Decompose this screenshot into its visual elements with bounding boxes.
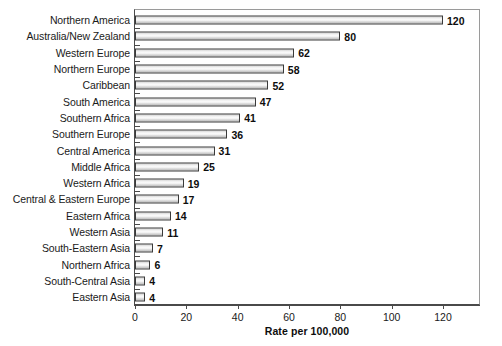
- category-label: South America: [63, 96, 134, 107]
- bar: [135, 211, 171, 220]
- bar: [135, 146, 215, 155]
- category-label: Eastern Africa: [66, 210, 134, 221]
- bar-with-value: 6: [135, 260, 160, 269]
- bar-row: South-Central Asia4: [0, 273, 502, 289]
- bar-with-value: 120: [135, 16, 465, 25]
- bar-row: Middle Africa25: [0, 159, 502, 175]
- bar-value-label: 80: [344, 31, 356, 41]
- bar-row: Southern Africa41: [0, 110, 502, 126]
- category-label: Central America: [57, 145, 134, 156]
- bar-value-label: 19: [188, 178, 200, 188]
- x-axis-tick-label: 40: [232, 311, 244, 323]
- bar-value-label: 58: [288, 64, 300, 74]
- x-axis-tick-label: 60: [283, 311, 295, 323]
- category-label: Western Asia: [70, 227, 134, 238]
- bar-value-label: 25: [203, 162, 215, 172]
- bar-row: Western Europe62: [0, 45, 502, 61]
- bar: [135, 228, 163, 237]
- bar-value-label: 4: [149, 292, 155, 302]
- bar: [135, 130, 227, 139]
- category-label: Western Europe: [56, 47, 134, 58]
- bar-row: Western Africa19: [0, 175, 502, 191]
- category-label: Caribbean: [82, 80, 134, 91]
- bar-value-label: 41: [244, 113, 256, 123]
- bar-with-value: 31: [135, 146, 230, 155]
- bar-row: South-Eastern Asia7: [0, 240, 502, 256]
- bar-row: Northern Africa6: [0, 256, 502, 272]
- bar: [135, 32, 340, 41]
- bar: [135, 97, 256, 106]
- bar-row: Northern Europe58: [0, 61, 502, 77]
- x-axis-tick-label: 20: [180, 311, 192, 323]
- bar: [135, 81, 268, 90]
- category-label: Southern Africa: [60, 112, 134, 123]
- category-label: Australia/New Zealand: [26, 31, 134, 42]
- x-axis-tick: [186, 305, 187, 309]
- bar-row: Central & Eastern Europe17: [0, 191, 502, 207]
- x-axis-tick: [289, 305, 290, 309]
- bar-row: Eastern Asia4: [0, 289, 502, 305]
- bar-chart: Northern America120Australia/New Zealand…: [0, 0, 502, 346]
- bar-value-label: 7: [157, 243, 163, 253]
- x-axis-title: Rate per 100,000: [134, 325, 480, 337]
- bar-value-label: 4: [149, 276, 155, 286]
- bar-with-value: 36: [135, 130, 243, 139]
- bar-with-value: 4: [135, 276, 155, 285]
- bar-row: Southern Europe36: [0, 126, 502, 142]
- bar-with-value: 52: [135, 81, 284, 90]
- bar-with-value: 80: [135, 32, 356, 41]
- bar: [135, 16, 443, 25]
- x-axis-tick: [443, 305, 444, 309]
- category-label: South-Eastern Asia: [42, 243, 134, 254]
- bar-value-label: 17: [183, 194, 195, 204]
- bar: [135, 195, 179, 204]
- bar-row: Australia/New Zealand80: [0, 28, 502, 44]
- x-axis-tick-label: 0: [132, 311, 138, 323]
- bar: [135, 293, 145, 302]
- bar: [135, 179, 184, 188]
- bar: [135, 244, 153, 253]
- bar-value-label: 62: [298, 48, 310, 58]
- category-label: Central & Eastern Europe: [13, 194, 134, 205]
- bar-with-value: 17: [135, 195, 194, 204]
- bar: [135, 260, 150, 269]
- bar-with-value: 25: [135, 162, 215, 171]
- bar-value-label: 36: [231, 129, 243, 139]
- bar-value-label: 11: [167, 227, 178, 237]
- bar-value-label: 52: [272, 80, 284, 90]
- x-axis-tick: [340, 305, 341, 309]
- category-label: Northern Europe: [54, 64, 134, 75]
- bar-row: South America47: [0, 93, 502, 109]
- bar-with-value: 58: [135, 65, 300, 74]
- bar-with-value: 62: [135, 48, 310, 57]
- bar-value-label: 31: [219, 146, 231, 156]
- category-label: South-Central Asia: [44, 275, 134, 286]
- bar: [135, 48, 294, 57]
- x-axis-tick: [238, 305, 239, 309]
- bar-row: Eastern Africa14: [0, 208, 502, 224]
- bar-value-label: 14: [175, 211, 187, 221]
- category-label: Eastern Asia: [72, 292, 134, 303]
- bar-with-value: 47: [135, 97, 271, 106]
- bar-with-value: 14: [135, 211, 187, 220]
- category-label: Southern Europe: [52, 129, 134, 140]
- bar-row: Caribbean52: [0, 77, 502, 93]
- x-axis: 020406080100120: [134, 305, 480, 306]
- bar-row: Western Asia11: [0, 224, 502, 240]
- category-label: Northern Africa: [61, 259, 134, 270]
- bar: [135, 162, 199, 171]
- bar-with-value: 4: [135, 293, 155, 302]
- bar-value-label: 120: [447, 15, 465, 25]
- x-axis-tick-label: 80: [334, 311, 346, 323]
- x-axis-tick-label: 100: [383, 311, 401, 323]
- bar-value-label: 47: [260, 97, 272, 107]
- bar-value-label: 6: [154, 260, 160, 270]
- category-label: Western Africa: [63, 178, 134, 189]
- category-label: Northern America: [50, 15, 134, 26]
- x-axis-tick: [135, 305, 136, 309]
- bar-rows: Northern America120Australia/New Zealand…: [0, 12, 502, 305]
- bar-with-value: 41: [135, 113, 256, 122]
- bar-row: Northern America120: [0, 12, 502, 28]
- x-axis-tick: [392, 305, 393, 309]
- bar: [135, 276, 145, 285]
